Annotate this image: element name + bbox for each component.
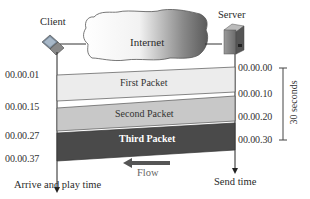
interval-bracket <box>279 68 287 140</box>
client-time-3: 00.00.27 <box>5 130 39 141</box>
flow-label: Flow <box>137 167 159 178</box>
third-packet-label: Third Packet <box>119 133 175 144</box>
client-axis-label: Arrive and play time <box>14 179 101 190</box>
client-time-2: 00.00.15 <box>5 101 39 112</box>
first-packet-label: First Packet <box>120 77 168 88</box>
second-packet-label: Second Packet <box>115 108 174 119</box>
server-tower-icon <box>224 24 244 54</box>
server-time-2: 00.00.10 <box>238 88 272 99</box>
server-label: Server <box>218 9 245 20</box>
client-time-1: 00.00.01 <box>5 69 39 80</box>
cloud-icon <box>84 9 208 60</box>
server-timeline-arrow <box>232 168 238 174</box>
server-time-3: 00.00.20 <box>238 111 272 122</box>
internet-label: Internet <box>130 36 164 48</box>
laptop-icon <box>42 35 64 55</box>
streaming-timing-diagram: Client Server Internet 00.00.01 00.00.15… <box>0 0 310 199</box>
client-label: Client <box>40 16 66 27</box>
interval-label: 30 seconds <box>288 73 299 133</box>
client-time-4: 00.00.37 <box>5 153 39 164</box>
server-time-1: 00.00.00 <box>238 62 272 73</box>
server-time-4: 00.00.30 <box>238 134 272 145</box>
server-axis-label: Send time <box>214 176 256 187</box>
